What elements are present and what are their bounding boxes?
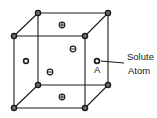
solute-label-line2: Atom (128, 65, 150, 76)
top-face-plus-atom-icon (59, 22, 65, 28)
solute-atom-icon (95, 59, 100, 64)
edge-top-right-depth (85, 13, 108, 36)
front-face-minus-atom-icon (47, 69, 53, 75)
corner-atom-icon (35, 10, 40, 15)
corner-atom-icon (11, 33, 16, 38)
left-face-empty-atom-icon (24, 59, 29, 64)
edge-bottom-right-depth (85, 85, 108, 108)
edge-top-left-depth (14, 13, 38, 36)
corner-atom-icon (82, 33, 87, 38)
solute-pointer-line (101, 61, 124, 63)
fcc-unit-cell-diagram: A Solute Atom (0, 0, 157, 118)
edge-bottom-left-depth (14, 85, 38, 108)
solute-label-line1: Solute (127, 51, 154, 62)
site-label-a: A (94, 64, 101, 75)
bottom-face-plus-atom-icon (59, 94, 65, 100)
corner-atom-icon (35, 82, 40, 87)
corner-atom-icon (82, 105, 87, 110)
corner-atom-icon (105, 82, 110, 87)
corner-atom-icon (11, 105, 16, 110)
corner-atom-icon (105, 10, 110, 15)
back-face-minus-atom-icon (70, 46, 76, 52)
